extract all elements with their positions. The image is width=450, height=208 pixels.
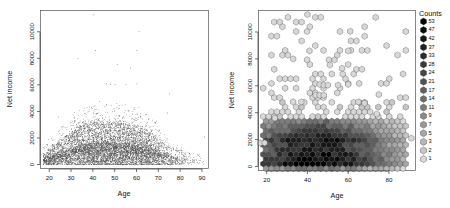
scatter-x-tick-label: 70 — [155, 174, 162, 181]
scatter-y-tick-label: 8000 — [29, 51, 36, 65]
hexbin-x-tick-label: 40 — [304, 176, 311, 183]
legend-value-label: 53 — [429, 18, 435, 24]
legend-swatch — [420, 95, 426, 102]
scatter-plot-svg: 0200040006000800010000 2030405060708090 … — [0, 0, 225, 208]
legend-swatch — [420, 61, 426, 68]
scatter-y-tick-label: 0 — [29, 162, 36, 166]
hexbin-plot-panel: 0200040006000800010000 20406080 Age Net … — [225, 0, 450, 208]
scatter-x-tick-label: 90 — [199, 174, 206, 181]
legend-value-label: 17 — [429, 87, 435, 93]
hexbin-x-tick-label: 80 — [386, 176, 393, 183]
legend-value-label: 2 — [429, 147, 432, 153]
legend-swatch — [420, 147, 426, 154]
legend-swatch — [420, 130, 426, 137]
legend-value-label: 3 — [429, 138, 432, 144]
legend-value-label: 42 — [429, 35, 435, 41]
scatter-y-tick-label: 2000 — [29, 131, 36, 145]
legend-swatch — [420, 18, 426, 25]
scatter-y-tick-label: 10000 — [29, 23, 36, 41]
legend-value-label: 33 — [429, 52, 435, 58]
scatter-x-tick-label: 80 — [177, 174, 184, 181]
legend-swatch — [420, 44, 426, 51]
legend-swatch — [420, 70, 426, 77]
scatter-y-tick-label: 4000 — [29, 104, 36, 118]
hexbin-y-tick-label: 10000 — [247, 23, 254, 41]
hexbin-y-tick-label: 6000 — [247, 78, 254, 92]
legend-swatch — [420, 78, 426, 85]
legend-swatch — [420, 52, 426, 59]
scatter-y-axis-title: Net income — [5, 71, 14, 107]
hexbin-y-tick-label: 4000 — [247, 105, 254, 119]
hexbin-y-tick-label: 2000 — [247, 132, 254, 146]
legend-swatch — [420, 87, 426, 94]
hexbin-y-tick-label: 0 — [247, 164, 254, 168]
scatter-x-axis-title: Age — [118, 189, 131, 198]
hexbin-y-axis-title: Net income — [227, 72, 236, 108]
legend-title: Counts — [419, 9, 442, 18]
legend-swatch — [420, 113, 426, 120]
legend-swatch — [420, 138, 426, 145]
figure-root: 0200040006000800010000 2030405060708090 … — [0, 0, 450, 208]
hexbin-plot-svg: 0200040006000800010000 20406080 Age Net … — [225, 0, 450, 208]
legend-value-label: 9 — [429, 112, 432, 118]
scatter-y-tick-label: 6000 — [29, 77, 36, 91]
scatter-x-tick-label: 60 — [133, 174, 140, 181]
legend-value-label: 24 — [429, 69, 435, 75]
scatter-plot-panel: 0200040006000800010000 2030405060708090 … — [0, 0, 225, 208]
hexbin-x-axis-title: Age — [331, 191, 344, 200]
legend-swatch — [420, 121, 426, 128]
legend-value-label: 37 — [429, 44, 435, 50]
legend-value-label: 11 — [429, 104, 435, 110]
legend-swatch — [420, 35, 426, 42]
scatter-x-tick-label: 50 — [111, 174, 118, 181]
legend-value-label: 14 — [429, 95, 435, 101]
legend-value-label: 28 — [429, 61, 435, 67]
scatter-x-tick-label: 30 — [68, 174, 75, 181]
legend-swatch — [420, 156, 426, 163]
hexbin-y-tick-label: 8000 — [247, 51, 254, 65]
hexbin-x-tick-label: 60 — [345, 176, 352, 183]
hexbin-x-tick-label: 20 — [263, 176, 270, 183]
legend-swatch — [420, 27, 426, 34]
legend-value-label: 1 — [429, 155, 432, 161]
legend-value-label: 47 — [429, 26, 435, 32]
legend-value-label: 7 — [429, 121, 432, 127]
scatter-x-tick-label: 40 — [89, 174, 96, 181]
legend-swatch — [420, 104, 426, 111]
legend-value-label: 5 — [429, 130, 432, 136]
scatter-x-tick-label: 20 — [46, 174, 53, 181]
legend-value-label: 21 — [429, 78, 435, 84]
